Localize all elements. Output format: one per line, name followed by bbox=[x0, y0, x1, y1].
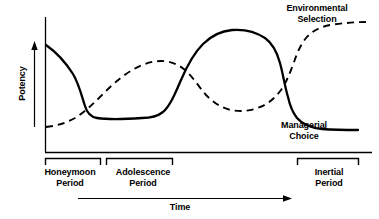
adolescence-period-label: Adolescence Period bbox=[104, 167, 182, 189]
x-axis-label: Time bbox=[150, 202, 210, 213]
environmental-selection-label: Environmental Selection bbox=[258, 3, 376, 25]
managerial-choice-label: Managerial Choice bbox=[252, 120, 356, 142]
honeymoon-period-label: Honeymoon Period bbox=[34, 167, 106, 189]
inertial-period-label: Inertial Period bbox=[298, 167, 360, 189]
y-axis-label: Potency bbox=[17, 54, 28, 114]
